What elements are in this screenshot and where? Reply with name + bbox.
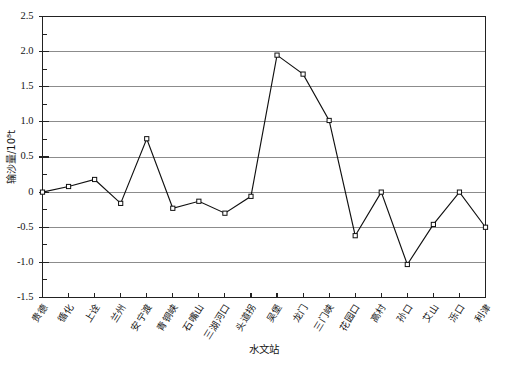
x-tick-label-17: 利津 — [473, 302, 493, 325]
x-axis-title: 水文站 — [249, 343, 280, 355]
x-tick-label-4: 安宁渡 — [129, 302, 154, 333]
chart-canvas: 2.52.01.51.00.50-0.5-1.0-1.5 贵德循化上诠兰州安宁渡… — [0, 0, 521, 367]
data-point-marker — [249, 194, 253, 198]
data-point-marker — [483, 225, 487, 229]
y-axis-title: 输沙量/10⁸t — [5, 130, 17, 184]
data-point-marker — [327, 118, 331, 122]
x-tick-label-9: 吴堡 — [264, 302, 284, 325]
y-tick-label: -0.5 — [17, 221, 34, 232]
grid-lines — [43, 17, 486, 263]
data-point-marker — [275, 53, 279, 57]
data-point-marker — [353, 234, 357, 238]
x-tick-label-5: 青铜峡 — [155, 302, 180, 333]
x-tick-label-3: 兰州 — [108, 302, 128, 325]
data-point-marker — [145, 137, 149, 141]
data-point-marker — [405, 262, 409, 266]
y-tick-label: 2.0 — [20, 45, 33, 56]
y-tick-label: 1.5 — [20, 80, 33, 91]
x-tick-label-11: 三门峡 — [311, 302, 336, 333]
x-tick-label-7: 三湖河口 — [202, 302, 233, 342]
x-tick-label-13: 高村 — [369, 302, 389, 325]
data-point-marker — [197, 199, 201, 203]
x-tick-label-16: 泺口 — [447, 302, 467, 325]
data-point-marker — [119, 201, 123, 205]
data-point-marker — [431, 222, 435, 226]
y-tick-label: 0 — [28, 186, 33, 197]
x-tick-label-15: 艾山 — [421, 302, 441, 325]
data-point-marker — [40, 190, 44, 194]
x-tick-label-2: 上诠 — [82, 302, 102, 325]
y-tick-label: 1.0 — [20, 115, 33, 126]
sediment-transport-chart: 2.52.01.51.00.50-0.5-1.0-1.5 贵德循化上诠兰州安宁渡… — [0, 0, 521, 367]
x-axis-tick-labels: 贵德循化上诠兰州安宁渡青铜峡石嘴山三湖河口头道拐吴堡龙门三门峡花园口高村孙口艾山… — [30, 302, 493, 342]
x-tick-label-6: 石嘴山 — [181, 302, 206, 333]
y-tick-label: 2.5 — [20, 10, 33, 21]
x-tick-label-10: 龙门 — [290, 302, 310, 325]
series-markers — [40, 53, 487, 267]
data-point-marker — [223, 211, 227, 215]
y-tick-label: -1.0 — [17, 256, 34, 267]
y-tick-label: 0.5 — [20, 150, 33, 161]
x-tick-label-8: 头道拐 — [233, 302, 258, 333]
y-tick-label: -1.5 — [17, 291, 34, 302]
y-axis-tick-labels: 2.52.01.51.00.50-0.5-1.0-1.5 — [17, 10, 34, 302]
data-point-marker — [171, 206, 175, 210]
x-tick-label-0: 贵德 — [30, 302, 50, 325]
x-axis-ticks — [43, 293, 486, 298]
x-tick-label-14: 孙口 — [395, 302, 415, 325]
data-point-marker — [379, 190, 383, 194]
x-tick-label-1: 循化 — [56, 302, 76, 325]
data-point-marker — [457, 190, 461, 194]
data-point-marker — [66, 184, 70, 188]
data-point-marker — [93, 177, 97, 181]
y-axis-major-ticks — [39, 17, 49, 298]
x-tick-label-12: 花园口 — [337, 302, 362, 333]
data-point-marker — [301, 72, 305, 76]
